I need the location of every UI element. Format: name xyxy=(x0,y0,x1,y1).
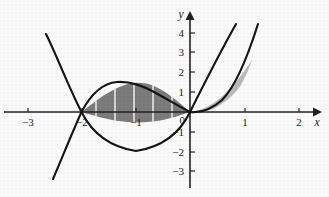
area-between-curves-chart: −3 −2 −1 1 2 4 3 2 1 −1 −2 −3 0 x y xyxy=(0,0,329,197)
y-axis-arrow xyxy=(186,11,195,20)
origin-label: 0 xyxy=(180,114,186,126)
y-axis-label: y xyxy=(177,8,184,21)
x-tick-label--1: −1 xyxy=(130,116,142,128)
x-tick-label-1: 1 xyxy=(242,116,248,128)
x-axis-label: x xyxy=(313,116,320,128)
y-tick-label-2: 2 xyxy=(179,66,185,78)
y-tick-label--2: −2 xyxy=(172,146,184,158)
x-tick-label-2: 2 xyxy=(296,116,302,128)
y-tick-label-1: 1 xyxy=(179,86,185,98)
y-tick-label--1: −1 xyxy=(172,126,184,138)
y-tick-label--3: −3 xyxy=(172,165,184,177)
chart-figure: −3 −2 −1 1 2 4 3 2 1 −1 −2 −3 0 x y xyxy=(0,0,329,197)
x-tick-label--2: −2 xyxy=(76,116,88,128)
y-tick-label-3: 3 xyxy=(179,46,185,58)
y-tick-label-4: 4 xyxy=(179,27,185,39)
shaded-region-group xyxy=(82,60,253,122)
x-tick-label--3: −3 xyxy=(22,116,34,128)
